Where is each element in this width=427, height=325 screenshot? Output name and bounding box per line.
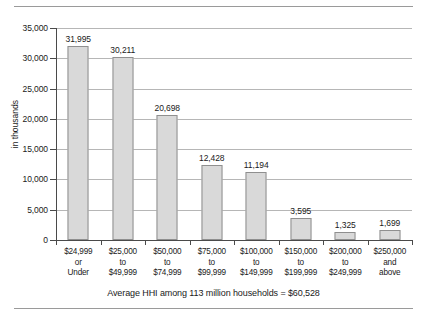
bar[interactable] — [335, 232, 356, 240]
x-axis-category-label: $150,000to$199,999 — [279, 247, 324, 279]
bar-slot: 12,428 — [190, 28, 235, 240]
bar-value-label: 11,194 — [244, 160, 269, 170]
bar[interactable] — [201, 165, 222, 240]
x-axis-tick-mark — [101, 241, 102, 245]
x-axis-tick-mark — [279, 241, 280, 245]
x-axis-tick-mark — [234, 241, 235, 245]
category-label-line: to — [234, 258, 279, 269]
x-axis-category-label: $25,000to$49,999 — [101, 247, 146, 279]
bar-slot: 31,995 — [56, 28, 101, 240]
x-axis-category-labels: $24,999orUnder$25,000to$49,999$50,000to$… — [56, 247, 412, 287]
category-label-line: to — [101, 258, 146, 269]
bar[interactable] — [157, 115, 178, 240]
x-axis-category-label: $200,000to$249,999 — [323, 247, 368, 279]
y-axis-title: in thousands — [10, 100, 20, 148]
y-axis-tick-label: 30,000 — [4, 53, 48, 63]
category-label-line: $50,000 — [145, 247, 190, 258]
category-label-line: $100,000 — [234, 247, 279, 258]
top-divider-rule — [14, 6, 413, 7]
bar-slot: 20,698 — [145, 28, 190, 240]
y-axis-tick-label: 35,000 — [4, 23, 48, 33]
x-axis-tick-mark — [412, 241, 413, 245]
y-axis-tick-label: 0 — [4, 235, 48, 245]
y-axis-tick-label: 10,000 — [4, 174, 48, 184]
bar-value-label: 3,595 — [290, 206, 311, 216]
x-axis-tick-mark — [368, 241, 369, 245]
x-axis-tick-mark — [56, 241, 57, 245]
category-label-line: to — [279, 258, 324, 269]
x-axis-tick-mark — [190, 241, 191, 245]
category-label-line: $49,999 — [101, 268, 146, 279]
category-label-line: $74,999 — [145, 268, 190, 279]
category-label-line: Under — [56, 268, 101, 279]
chart-annotation: Average HHI among 113 million households… — [0, 288, 427, 298]
bar-series: 31,99530,21120,69812,42811,1943,5951,325… — [56, 28, 412, 240]
x-axis-tick-mark — [323, 241, 324, 245]
category-label-line: $199,999 — [279, 268, 324, 279]
bar-slot: 30,211 — [101, 28, 146, 240]
category-label-line: $150,000 — [279, 247, 324, 258]
bar-slot: 3,595 — [279, 28, 324, 240]
x-axis-category-label: $250,000andabove — [368, 247, 413, 279]
category-label-line: to — [145, 258, 190, 269]
bar-slot: 1,325 — [323, 28, 368, 240]
category-label-line: $149,999 — [234, 268, 279, 279]
bar-value-label: 30,211 — [110, 45, 135, 55]
bar-slot: 1,699 — [368, 28, 413, 240]
category-label-line: or — [56, 258, 101, 269]
x-axis-category-label: $100,000to$149,999 — [234, 247, 279, 279]
x-axis-category-label: $50,000to$74,999 — [145, 247, 190, 279]
bar-value-label: 1,325 — [335, 220, 356, 230]
category-label-line: to — [190, 258, 235, 269]
x-axis-category-label: $75,000to$99,999 — [190, 247, 235, 279]
x-axis-category-label: $24,999orUnder — [56, 247, 101, 279]
bar-value-label: 31,995 — [66, 34, 91, 44]
bottom-divider-rule — [14, 308, 413, 309]
category-label-line: $24,999 — [56, 247, 101, 258]
y-axis-tick-label: 5,000 — [4, 205, 48, 215]
x-axis-tick-mark — [145, 241, 146, 245]
y-axis-tick-label: 25,000 — [4, 84, 48, 94]
category-label-line: $249,999 — [323, 268, 368, 279]
chart-figure: 05,00010,00015,00020,00025,00030,00035,0… — [0, 0, 427, 325]
bar-value-label: 1,699 — [379, 218, 400, 228]
category-label-line: to — [323, 258, 368, 269]
bar-value-label: 20,698 — [155, 103, 180, 113]
x-axis-tick-marks — [56, 241, 413, 246]
bar[interactable] — [112, 57, 133, 240]
bar[interactable] — [246, 172, 267, 240]
bar[interactable] — [68, 46, 89, 240]
category-label-line: $200,000 — [323, 247, 368, 258]
bar-value-label: 12,428 — [199, 153, 224, 163]
category-label-line: $250,000 — [368, 247, 413, 258]
category-label-line: $25,000 — [101, 247, 146, 258]
category-label-line: $99,999 — [190, 268, 235, 279]
bar[interactable] — [290, 218, 311, 240]
bar-slot: 11,194 — [234, 28, 279, 240]
category-label-line: and — [368, 258, 413, 269]
bar[interactable] — [379, 230, 400, 240]
category-label-line: above — [368, 268, 413, 279]
category-label-line: $75,000 — [190, 247, 235, 258]
